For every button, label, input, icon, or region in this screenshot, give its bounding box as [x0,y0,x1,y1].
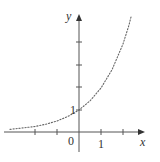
origin-label: 0 [68,134,74,148]
y-one-label: 1 [70,103,76,117]
y-axis-label: y [65,9,72,23]
x-axis-label: x [139,135,146,149]
exponential-graph: y x 0 1 1 [0,0,160,162]
y-axis-arrow-icon [76,14,82,21]
x-one-label: 1 [98,137,104,151]
